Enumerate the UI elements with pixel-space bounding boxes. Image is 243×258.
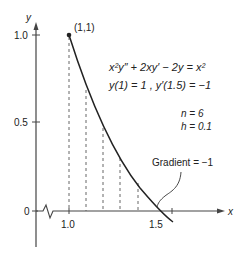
param-h: h = 0.1 [181,121,212,132]
annotation-leader [157,172,181,207]
diagram: y 1.0 0.5 0 x 1.0 1.5 (1,1) x²y″ + 2xy′ … [0,0,243,258]
y-tick-0: 0 [24,206,30,217]
param-n: n = 6 [181,108,204,119]
point-label: (1,1) [74,22,95,33]
gradient-annotation: Gradient = −1 [152,157,214,168]
y-tick-1: 1.0 [14,30,28,41]
equation-line-1: x²y″ + 2xy′ − 2y = x² [108,61,205,73]
y-axis-label: y [25,12,32,23]
x-tick-15: 1.5 [149,219,163,230]
x-tick-1: 1.0 [61,219,75,230]
initial-point [67,33,72,38]
plot-canvas: y 1.0 0.5 0 x 1.0 1.5 (1,1) x²y″ + 2xy′ … [0,0,243,258]
x-axis [36,205,225,218]
x-axis-label: x [227,206,234,217]
equation-line-2: y(1) = 1 , y′(1.5) = −1 [108,79,211,91]
y-axis [32,22,40,247]
y-tick-05: 0.5 [14,117,28,128]
